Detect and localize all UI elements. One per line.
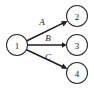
graph-diagram: A B C 1 2 3 [0, 0, 94, 90]
node-2-label: 2 [75, 12, 80, 22]
edge-a-label: A [38, 17, 45, 27]
edge-b-arrowhead [62, 42, 67, 47]
node-2[interactable]: 2 [67, 6, 88, 27]
edge-c: C [26, 50, 68, 70]
node-4[interactable]: 4 [67, 63, 88, 84]
node-3-label: 3 [75, 41, 80, 51]
node-3[interactable]: 3 [67, 35, 88, 56]
edge-b-label: B [45, 33, 51, 43]
edge-c-label: C [45, 52, 52, 62]
node-1-label: 1 [15, 41, 20, 51]
graph-canvas: A B C 1 2 3 [0, 0, 94, 90]
node-1[interactable]: 1 [7, 35, 28, 56]
node-4-label: 4 [75, 69, 80, 79]
edge-b: B [28, 33, 67, 48]
